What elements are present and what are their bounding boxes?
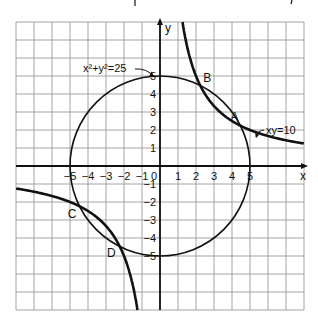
y-axis-label: y xyxy=(165,21,171,35)
point-label-a: A xyxy=(230,110,238,124)
y-tick-label: 3 xyxy=(150,106,156,118)
x-tick-label: 1 xyxy=(175,170,181,182)
axes xyxy=(16,18,308,310)
x-tick-label: −2 xyxy=(118,170,131,182)
y-tick-label: −5 xyxy=(143,250,156,262)
graph: −5−4−3−2−101234554321−1−2−3−4−5xy ABCDx²… xyxy=(0,0,318,328)
y-arrow-icon xyxy=(157,18,163,25)
circle-equation-label: x²+y²=25 xyxy=(83,62,126,74)
y-tick-label: −4 xyxy=(143,232,156,244)
y-tick-label: −3 xyxy=(143,214,156,226)
x-tick-label: −4 xyxy=(82,170,95,182)
y-tick-label: 1 xyxy=(150,142,156,154)
point-label-c: C xyxy=(68,207,77,221)
x-tick-label: 2 xyxy=(193,170,199,182)
y-tick-label: −2 xyxy=(143,196,156,208)
y-tick-label: −1 xyxy=(143,178,156,190)
y-tick-label: 2 xyxy=(150,124,156,136)
cropped-mark xyxy=(291,0,292,4)
x-tick-label: 5 xyxy=(247,170,253,182)
x-axis-label: x xyxy=(300,169,306,183)
x-tick-label: 4 xyxy=(229,170,235,182)
point-label-b: B xyxy=(203,71,211,85)
hyperbola-equation-label: xy=10 xyxy=(266,124,296,136)
x-tick-label: 3 xyxy=(211,170,217,182)
point-label-d: D xyxy=(107,246,116,260)
annotations: ABCDx²+y²=25xy=10 xyxy=(68,62,296,260)
x-tick-label: −3 xyxy=(100,170,113,182)
tick-labels: −5−4−3−2−101234554321−1−2−3−4−5xy xyxy=(64,21,306,262)
y-tick-label: 4 xyxy=(150,88,156,100)
x-tick-label: −5 xyxy=(64,170,77,182)
